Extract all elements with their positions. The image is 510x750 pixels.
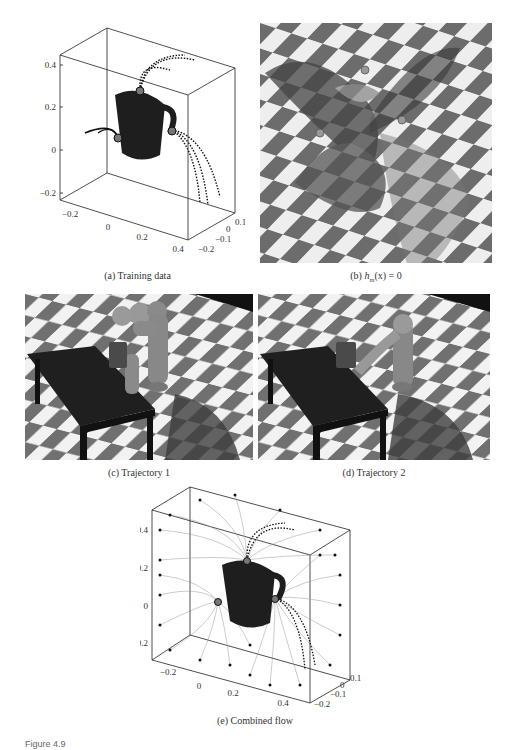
training-data-plot: 0.4 0.2 0 −0.2 −0.2 0 0.2 0.4 −0.2 −0.1 … [30, 25, 245, 260]
svg-text:0: 0 [52, 145, 57, 155]
svg-text:0.4: 0.4 [172, 244, 184, 254]
svg-text:0: 0 [144, 601, 149, 611]
panel-e-combined-flow: 0.4 0.2 0 −0.2 −0.2 0 0.2 0.4 −0.2 −0.1 … [140, 485, 370, 710]
svg-text:0.2: 0.2 [140, 563, 148, 573]
svg-text:−0.2: −0.2 [314, 699, 330, 709]
pitcher-icon [109, 342, 127, 368]
panel-c-trajectory-1-render [25, 294, 253, 460]
panel-d-trajectory-2-render [258, 294, 490, 460]
pitcher-icon [115, 91, 174, 160]
svg-text:0.2: 0.2 [227, 688, 238, 698]
z-axis-ticks [60, 65, 63, 193]
caption-d: (d) Trajectory 2 [258, 467, 490, 478]
svg-text:0.2: 0.2 [45, 102, 56, 112]
panel-a-training-data: 0.4 0.2 0 −0.2 −0.2 0 0.2 0.4 −0.2 −0.1 … [30, 25, 245, 260]
svg-text:0.1: 0.1 [235, 217, 245, 227]
svg-text:−0.2: −0.2 [40, 188, 56, 198]
svg-text:0.1: 0.1 [350, 673, 361, 683]
svg-text:0: 0 [106, 222, 111, 232]
caption-b: (b) hm(x) = 0 [260, 270, 492, 284]
svg-text:0: 0 [197, 681, 202, 691]
svg-text:−0.1: −0.1 [330, 689, 346, 699]
svg-text:0.2: 0.2 [136, 232, 147, 242]
svg-text:0.4: 0.4 [277, 698, 289, 708]
svg-text:−0.2: −0.2 [160, 667, 176, 677]
svg-text:0: 0 [226, 224, 231, 234]
svg-text:0.4: 0.4 [140, 525, 149, 535]
svg-text:−0.2: −0.2 [62, 209, 78, 219]
panel-b-level-set-render [260, 23, 492, 263]
caption-a: (a) Training data [30, 270, 245, 281]
svg-text:0: 0 [340, 680, 345, 690]
pitcher-icon [336, 342, 356, 368]
svg-text:−0.1: −0.1 [215, 234, 231, 244]
svg-text:−0.2: −0.2 [140, 638, 148, 648]
caption-e: (e) Combined flow [140, 715, 370, 726]
svg-text:−0.2: −0.2 [198, 244, 214, 254]
pitcher-icon [222, 561, 283, 628]
combined-flow-plot: 0.4 0.2 0 −0.2 −0.2 0 0.2 0.4 −0.2 −0.1 … [140, 485, 370, 710]
caption-c: (c) Trajectory 1 [25, 467, 253, 478]
svg-text:0.4: 0.4 [45, 60, 57, 70]
figure-label: Figure 4.9 [25, 739, 66, 749]
